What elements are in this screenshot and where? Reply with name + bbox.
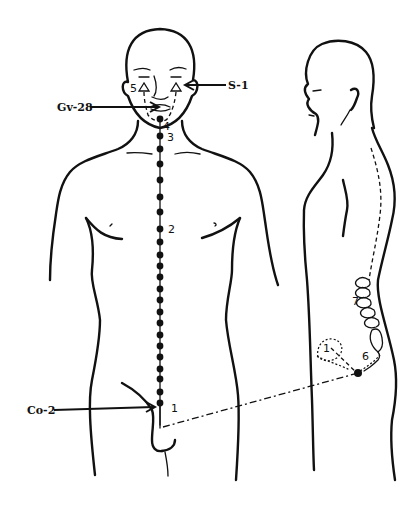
leg-inner-line [165, 452, 168, 476]
governing-vessel-spine-path [369, 148, 381, 280]
connector-front-to-side [163, 373, 358, 427]
number-6: 6 [362, 350, 369, 363]
front-right-shoulder-arm [182, 121, 278, 285]
meridian-diagram: S-1 Gv-28 Co-2 5 4 3 2 1 7 6 1 [0, 0, 420, 508]
side-head-outline [305, 41, 374, 135]
number-1-front: 1 [171, 402, 178, 415]
label-s1: S-1 [228, 79, 249, 92]
number-2: 2 [168, 223, 175, 236]
side-ear [351, 89, 358, 110]
point-s1-triangle [171, 83, 181, 91]
left-nipple [110, 224, 112, 226]
left-clavicle [127, 153, 152, 154]
co2-arrow-shaft [54, 407, 154, 410]
front-right-torso-side [226, 218, 240, 480]
genital-outline [162, 440, 175, 451]
number-7: 7 [352, 295, 359, 308]
side-front-outline [304, 133, 333, 470]
number-1-side: 1 [323, 342, 330, 355]
side-arm-line [343, 180, 348, 236]
right-clavicle [175, 153, 200, 155]
nose [152, 76, 168, 99]
label-co2: Co-2 [27, 404, 55, 417]
left-eyebrow [134, 69, 150, 71]
groin-left-line [122, 383, 162, 451]
side-figure [304, 41, 396, 480]
side-back-outline [372, 128, 396, 480]
label-arrows [54, 80, 226, 412]
side-mouth [309, 115, 314, 116]
point-6-marker [354, 369, 362, 377]
side-point1-to-6-path [331, 348, 357, 373]
side-jaw [341, 110, 350, 125]
front-left-torso-side [86, 218, 100, 475]
number-5: 5 [130, 82, 137, 95]
right-eyebrow [170, 68, 186, 70]
front-head-outline [123, 29, 198, 128]
point-5-triangle [139, 83, 149, 91]
side-point1-region-lower [317, 356, 350, 370]
side-eye [313, 90, 321, 91]
front-figure [50, 29, 278, 480]
number-3: 3 [167, 131, 174, 144]
right-nipple [214, 223, 216, 226]
label-gv28: Gv-28 [57, 101, 93, 114]
